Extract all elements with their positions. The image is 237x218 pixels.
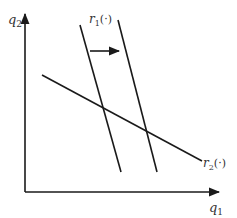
reaction-function-diagram: q2 q1 r1(·) r2(·) — [0, 0, 237, 218]
y-axis-label: q2 — [8, 12, 22, 29]
r1-shifted-curve — [118, 20, 157, 172]
r1-label: r1(·) — [89, 12, 112, 28]
r2-curve — [42, 75, 202, 161]
x-axis-label: q1 — [209, 200, 223, 217]
r2-label: r2(·) — [203, 156, 226, 172]
axes — [25, 14, 219, 192]
